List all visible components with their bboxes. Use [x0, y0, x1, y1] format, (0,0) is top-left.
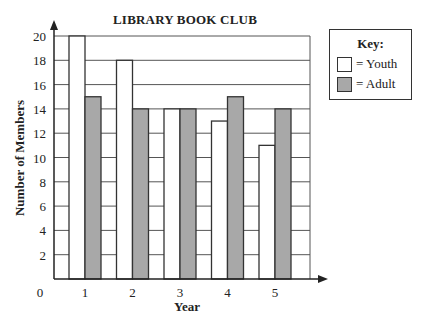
y-tick-label: 16	[33, 78, 47, 93]
bar-adult-year-5	[275, 109, 291, 279]
origin-label: 0	[37, 285, 44, 300]
youth-swatch	[337, 57, 352, 72]
adult-swatch	[337, 77, 352, 92]
y-tick-label: 10	[33, 151, 46, 166]
bar-youth-year-5	[259, 145, 275, 279]
legend: Key: = Youth = Adult	[329, 29, 412, 100]
y-tick-label: 6	[40, 199, 47, 214]
bar-adult-year-3	[180, 109, 196, 279]
legend-label-adult: = Adult	[356, 76, 395, 92]
x-tick-label: 4	[224, 285, 231, 300]
bar-adult-year-4	[228, 97, 244, 279]
y-axis-arrow-icon	[50, 20, 58, 30]
y-tick-label: 12	[33, 126, 46, 141]
legend-item-adult: = Adult	[337, 76, 411, 92]
x-tick-label: 1	[82, 285, 89, 300]
bar-youth-year-2	[117, 60, 133, 279]
y-tick-label: 8	[40, 175, 47, 190]
bar-adult-year-2	[133, 109, 149, 279]
legend-label-youth: = Youth	[356, 56, 397, 72]
bar-youth-year-3	[164, 109, 180, 279]
y-tick-label: 14	[33, 102, 47, 117]
y-tick-label: 18	[33, 53, 46, 68]
bar-adult-year-1	[85, 97, 101, 279]
bar-youth-year-4	[212, 121, 228, 279]
bar-youth-year-1	[69, 36, 85, 279]
y-tick-label: 20	[33, 29, 46, 44]
x-tick-label: 5	[272, 285, 279, 300]
legend-title: Key:	[330, 36, 411, 52]
y-tick-label: 4	[40, 223, 47, 238]
y-tick-label: 2	[40, 248, 47, 263]
x-tick-label: 3	[177, 285, 184, 300]
legend-item-youth: = Youth	[337, 56, 411, 72]
x-tick-label: 2	[129, 285, 136, 300]
x-axis-arrow-icon	[318, 275, 328, 283]
